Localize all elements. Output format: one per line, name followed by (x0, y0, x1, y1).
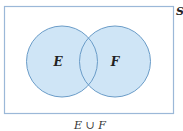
universe-label: S (176, 5, 183, 18)
caption: E ∪ F (73, 119, 106, 131)
venn-diagram: E F S E ∪ F (0, 0, 183, 131)
set-f-label: F (110, 55, 121, 69)
set-e-label: E (52, 55, 63, 69)
